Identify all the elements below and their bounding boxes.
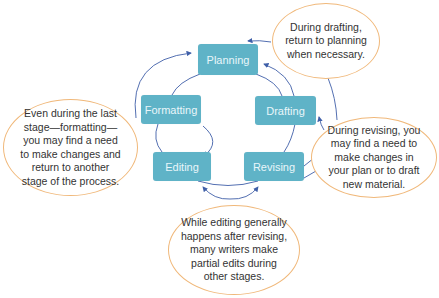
note-line: new material.: [328, 178, 421, 192]
note-line: return to planning: [285, 34, 367, 48]
stage-planning: Planning: [198, 44, 258, 75]
stage-formatting: Formatting: [141, 95, 201, 124]
note-line: your plan or to draft: [328, 164, 421, 178]
note-line: may find a need to: [328, 137, 421, 151]
note-line: happens after revising,: [181, 230, 287, 244]
note-line: return to another: [20, 161, 120, 175]
note-line: stage—formatting—: [20, 121, 120, 135]
note-line: During revising, you: [328, 124, 421, 138]
note-line: partial edits during: [181, 257, 287, 271]
note-line: make changes in: [328, 151, 421, 165]
note-line: many writers make: [181, 243, 287, 257]
note-line: Even during the last: [20, 107, 120, 121]
note-line: During drafting,: [285, 21, 367, 35]
note-line: when necessary.: [285, 48, 367, 62]
stage-drafting: Drafting: [255, 96, 316, 125]
note-line: you may find a need: [20, 134, 120, 148]
stage-revising: Revising: [244, 152, 304, 181]
note-revising: During revising, you may find a need to …: [311, 117, 437, 198]
note-line: to make changes and: [20, 148, 120, 162]
note-formatting: Even during the last stage—formatting— y…: [3, 99, 138, 196]
stage-editing: Editing: [153, 152, 211, 181]
note-line: stage of the process.: [20, 175, 120, 189]
note-editing: While editing generally happens after re…: [168, 205, 300, 295]
note-line: While editing generally: [181, 216, 287, 230]
note-line: other stages.: [181, 270, 287, 284]
note-drafting: During drafting, return to planning when…: [272, 3, 380, 79]
